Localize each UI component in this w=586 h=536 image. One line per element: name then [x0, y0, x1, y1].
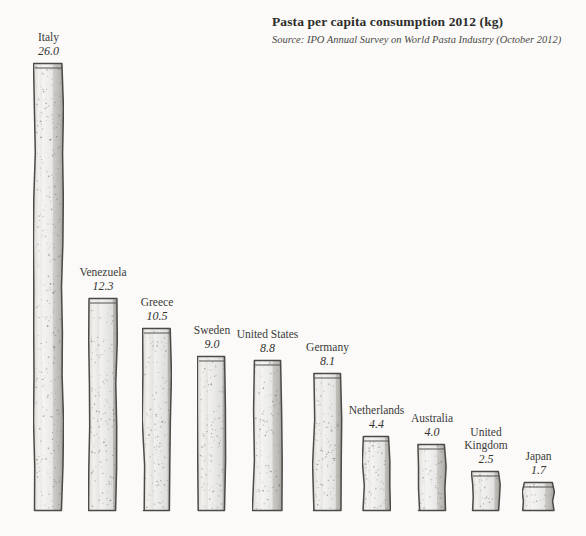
bar-label: Venezuela12.3 [79, 266, 126, 293]
bar-group[interactable]: Japan1.7 [522, 481, 555, 512]
bar-chart-plot: Italy26.0Venezuela12.3Greece10.5Sweden9.… [0, 0, 586, 536]
bar-group[interactable]: Sweden9.0 [197, 355, 227, 512]
bar-label: Sweden9.0 [194, 324, 230, 351]
bar-shape [33, 62, 64, 512]
bar-country-name: United States [237, 328, 299, 341]
bar-country-name: Germany [306, 341, 349, 354]
bar-country-name: Netherlands [349, 404, 405, 417]
bar-label: Germany8.1 [306, 341, 349, 368]
bar-group[interactable]: United States8.8 [252, 359, 283, 512]
bar-shape [362, 435, 391, 512]
bar-group[interactable]: UnitedKingdom2.5 [471, 470, 501, 512]
bar-shape [197, 355, 227, 512]
bar-shape [252, 359, 283, 512]
bar-shape [142, 327, 172, 512]
bar-label: UnitedKingdom2.5 [464, 426, 507, 466]
bar-country-name: Japan [525, 450, 551, 463]
bar-group[interactable]: Venezuela12.3 [88, 297, 118, 512]
bar-country-name: Italy [38, 31, 59, 44]
bar-shape [88, 297, 118, 512]
bar-country-name: United [464, 426, 507, 439]
bar-group[interactable]: Australia4.0 [417, 443, 447, 512]
bar-label: Australia4.0 [411, 412, 453, 439]
bar-shape [417, 443, 447, 512]
bar-value-label: 8.8 [237, 342, 299, 355]
bar-group[interactable]: Greece10.5 [142, 327, 172, 512]
bar-value-label: 4.0 [411, 426, 453, 439]
bar-value-label: 1.7 [525, 464, 551, 477]
bar-group[interactable]: Italy26.0 [33, 62, 64, 512]
bar-country-name: Venezuela [79, 266, 126, 279]
bar-shape [471, 470, 501, 512]
bar-country-name-line2: Kingdom [464, 439, 507, 452]
chart-root: Pasta per capita consumption 2012 (kg) S… [0, 0, 586, 536]
bar-value-label: 10.5 [141, 310, 174, 323]
bar-value-label: 8.1 [306, 355, 349, 368]
bar-shape [312, 372, 343, 512]
bar-value-label: 2.5 [464, 453, 507, 466]
bar-country-name: Greece [141, 296, 174, 309]
bar-country-name: Australia [411, 412, 453, 425]
bar-value-label: 4.4 [349, 418, 405, 431]
bar-label: Netherlands4.4 [349, 404, 405, 431]
bar-value-label: 26.0 [38, 45, 59, 58]
bar-label: Greece10.5 [141, 296, 174, 323]
bar-group[interactable]: Netherlands4.4 [362, 435, 391, 512]
bar-value-label: 12.3 [79, 280, 126, 293]
bar-value-label: 9.0 [194, 338, 230, 351]
bar-label: Italy26.0 [38, 31, 59, 58]
bar-country-name: Sweden [194, 324, 230, 337]
bar-label: United States8.8 [237, 328, 299, 355]
bar-group[interactable]: Germany8.1 [312, 372, 343, 512]
bar-shape [522, 481, 555, 512]
bar-label: Japan1.7 [525, 450, 551, 477]
